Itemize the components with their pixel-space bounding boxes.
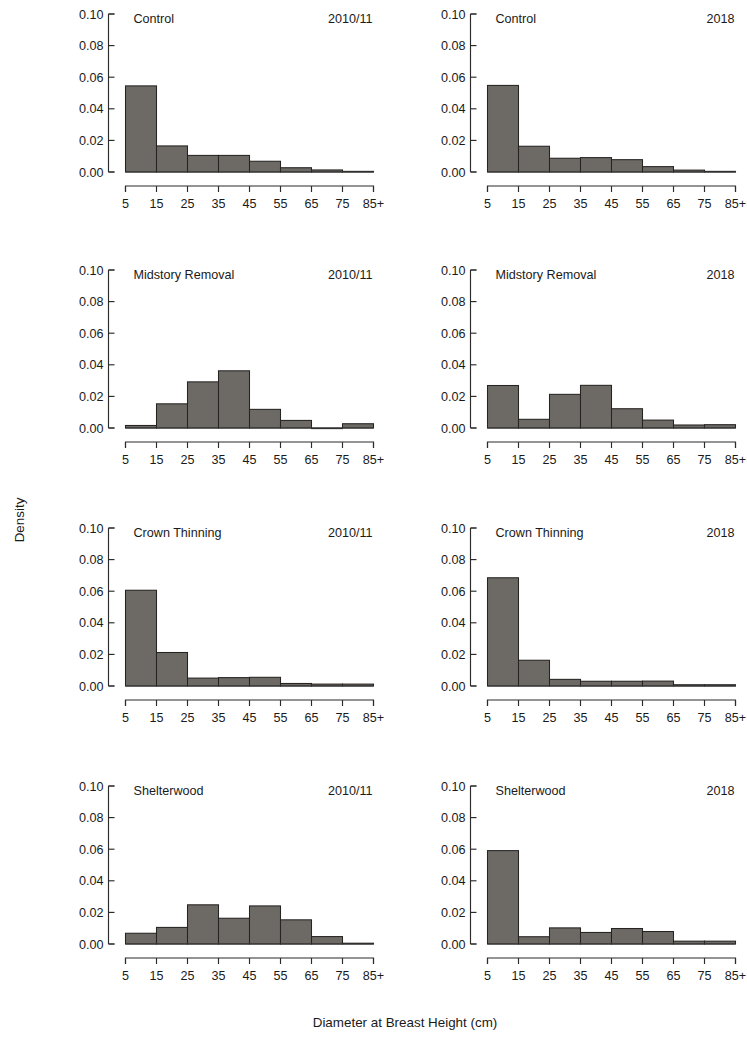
histogram-bar [188, 678, 219, 686]
y-axis-line [471, 528, 477, 686]
x-tick-label: 65 [666, 453, 680, 467]
histogram-bar [612, 929, 643, 944]
y-tick-label: 0.02 [79, 390, 104, 404]
x-tick-label: 55 [635, 969, 649, 983]
histogram-bar [581, 385, 612, 428]
x-tick-label: 5 [484, 453, 491, 467]
x-tick-label: 25 [542, 969, 556, 983]
panel-year-label: 2010/11 [328, 526, 373, 540]
histogram-bar [188, 905, 219, 944]
x-tick-label: 15 [511, 711, 525, 725]
y-axis-line [109, 14, 115, 172]
x-tick-label: 45 [242, 711, 256, 725]
x-tick-label: 75 [697, 197, 711, 211]
y-tick-label: 0.02 [79, 648, 104, 662]
y-tick-label: 0.10 [79, 264, 104, 278]
y-axis-line [471, 270, 477, 428]
x-tick-label: 55 [635, 197, 649, 211]
histogram-bar [581, 158, 612, 172]
histogram-bar [312, 937, 343, 944]
x-tick-label: 65 [666, 197, 680, 211]
x-tick-label: 45 [604, 197, 618, 211]
x-tick-label: 55 [273, 711, 287, 725]
histogram-bar [188, 155, 219, 172]
panel-year-label: 2010/11 [328, 12, 373, 26]
y-tick-label: 0.10 [79, 780, 104, 794]
x-tick-label: 85+ [725, 197, 746, 211]
histogram-bar [157, 146, 188, 172]
histogram-bar [612, 681, 643, 686]
panel-treatment-label: Control [496, 12, 537, 26]
x-tick-label: 35 [211, 453, 225, 467]
histogram-bar [157, 404, 188, 428]
histogram-bar [581, 932, 612, 944]
histogram-bar [550, 394, 581, 428]
panel-year-label: 2018 [706, 12, 734, 26]
panel-treatment-label: Midstory Removal [134, 268, 235, 282]
x-tick-label: 85+ [363, 969, 384, 983]
histogram-bar [157, 653, 188, 686]
x-tick-label: 25 [180, 711, 194, 725]
x-tick-label: 35 [211, 197, 225, 211]
x-tick-label: 65 [304, 453, 318, 467]
y-tick-label: 0.02 [441, 390, 466, 404]
y-axis-line [109, 270, 115, 428]
x-tick-label: 25 [542, 711, 556, 725]
x-tick-label: 45 [242, 969, 256, 983]
y-tick-label: 0.06 [441, 71, 466, 85]
x-tick-label: 15 [149, 453, 163, 467]
x-tick-label: 75 [697, 711, 711, 725]
x-tick-label: 75 [697, 453, 711, 467]
x-tick-label: 25 [180, 453, 194, 467]
histogram-bar [157, 927, 188, 944]
panel-shelterwood-2018: 0.000.020.040.060.080.105152535455565758… [441, 780, 746, 984]
histogram-bar [281, 920, 312, 944]
y-tick-label: 0.08 [441, 811, 466, 825]
y-tick-label: 0.00 [79, 680, 104, 694]
histogram-bar [550, 679, 581, 686]
histogram-bar [126, 933, 157, 944]
x-tick-label: 5 [484, 197, 491, 211]
y-tick-label: 0.00 [79, 166, 104, 180]
y-tick-label: 0.02 [79, 906, 104, 920]
x-tick-label: 25 [180, 969, 194, 983]
y-tick-label: 0.06 [79, 71, 104, 85]
x-tick-label: 75 [335, 711, 349, 725]
y-tick-label: 0.00 [79, 938, 104, 952]
x-tick-label: 65 [666, 711, 680, 725]
x-tick-label: 15 [149, 969, 163, 983]
y-axis-line [109, 528, 115, 686]
histogram-bar [519, 419, 550, 428]
x-tick-label: 75 [335, 969, 349, 983]
x-tick-label: 85+ [725, 453, 746, 467]
histogram-bar [550, 928, 581, 944]
y-tick-label: 0.04 [79, 874, 104, 888]
histogram-bar [219, 155, 250, 172]
y-tick-label: 0.02 [441, 134, 466, 148]
y-axis-line [471, 786, 477, 944]
y-tick-label: 0.10 [441, 522, 466, 536]
panel-treatment-label: Crown Thinning [134, 526, 222, 540]
x-tick-label: 5 [484, 711, 491, 725]
histogram-bar [488, 85, 519, 172]
x-tick-label: 15 [511, 453, 525, 467]
x-tick-label: 85+ [725, 969, 746, 983]
x-tick-label: 15 [149, 197, 163, 211]
x-tick-label: 35 [573, 711, 587, 725]
y-tick-label: 0.08 [441, 553, 466, 567]
panel-treatment-label: Control [134, 12, 175, 26]
histogram-bar [219, 371, 250, 428]
x-tick-label: 65 [304, 197, 318, 211]
x-tick-label: 25 [542, 453, 556, 467]
x-tick-label: 25 [542, 197, 556, 211]
y-tick-label: 0.08 [441, 295, 466, 309]
x-tick-label: 75 [335, 453, 349, 467]
x-tick-label: 45 [242, 453, 256, 467]
panel-midstory-removal-2010-11: 0.000.020.040.060.080.105152535455565758… [79, 264, 384, 468]
y-tick-label: 0.10 [79, 522, 104, 536]
x-tick-label: 75 [697, 969, 711, 983]
histogram-bar [643, 420, 674, 428]
histogram-bar [343, 424, 374, 428]
x-tick-label: 45 [604, 711, 618, 725]
y-tick-label: 0.08 [79, 811, 104, 825]
